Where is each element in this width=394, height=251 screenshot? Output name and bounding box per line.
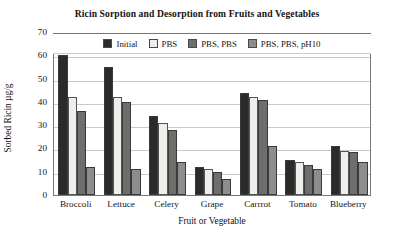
bar	[149, 116, 158, 195]
bar-group	[149, 34, 186, 195]
bar	[113, 97, 122, 195]
bar	[77, 111, 86, 195]
bar	[195, 167, 204, 195]
x-axis-tick-label: Blueberry	[326, 199, 371, 209]
x-axis-title: Fruit or Vegetable	[53, 216, 371, 226]
bar	[313, 169, 322, 195]
bar	[331, 146, 340, 195]
legend-label: PBS, PBS	[201, 39, 237, 49]
y-axis-tick-label: 40	[17, 98, 47, 107]
bar-group	[104, 34, 141, 195]
chart-legend: InitialPBSPBS, PBSPBS, PBS, pH10	[53, 34, 371, 54]
legend-item: PBS, PBS, pH10	[248, 39, 321, 49]
bar	[222, 179, 231, 195]
bar-group	[331, 34, 368, 195]
x-axis-tick-label: Broccoli	[53, 199, 98, 209]
y-axis-tick-label: 60	[17, 51, 47, 60]
bar	[240, 93, 249, 195]
bar	[158, 123, 167, 195]
legend-label: Initial	[116, 39, 137, 49]
bars-layer	[54, 34, 370, 195]
bar	[295, 162, 304, 195]
x-axis-tick-label: Carrrot	[235, 199, 280, 209]
y-axis-tick-label: 20	[17, 144, 47, 153]
bar-group	[285, 34, 322, 195]
bar	[349, 152, 358, 195]
bar	[58, 55, 67, 195]
chart-container: Ricin Sorption and Desorption from Fruit…	[0, 0, 394, 251]
legend-label: PBS	[162, 39, 178, 49]
y-axis-title: Sorbed Ricin µg/g	[1, 58, 15, 178]
bar-group	[195, 34, 232, 195]
x-axis-tick-label: Celery	[144, 199, 189, 209]
legend-swatch-icon	[103, 39, 112, 48]
legend-swatch-icon	[149, 39, 158, 48]
legend-swatch-icon	[248, 39, 257, 48]
bar	[68, 97, 77, 195]
y-axis-title-text: Sorbed Ricin µg/g	[3, 84, 13, 153]
x-axis-tick-label: Lettuce	[98, 199, 143, 209]
bar	[131, 169, 140, 195]
y-axis-tick-label: 0	[17, 191, 47, 200]
x-axis-tick-label: Tomato	[280, 199, 325, 209]
legend-label: PBS, PBS, pH10	[261, 39, 321, 49]
bar	[122, 102, 131, 195]
bar	[258, 100, 267, 195]
legend-item: Initial	[103, 39, 137, 49]
legend-swatch-icon	[188, 39, 197, 48]
bar	[358, 162, 367, 195]
bar	[204, 169, 213, 195]
chart-title: Ricin Sorption and Desorption from Fruit…	[0, 8, 394, 19]
bar	[340, 151, 349, 195]
bar-group	[58, 34, 95, 195]
legend-item: PBS	[149, 39, 178, 49]
bar	[249, 97, 258, 195]
plot-area	[53, 33, 371, 196]
y-axis-tick-label: 50	[17, 75, 47, 84]
bar	[285, 160, 294, 195]
y-axis-tick-label: 30	[17, 121, 47, 130]
y-axis-tick-label: 10	[17, 168, 47, 177]
y-axis-tick-label: 70	[17, 28, 47, 37]
bar	[104, 67, 113, 195]
bar	[304, 165, 313, 195]
bar-group	[240, 34, 277, 195]
bar	[213, 172, 222, 195]
legend-item: PBS, PBS	[188, 39, 237, 49]
x-axis-tick-label: Grape	[189, 199, 234, 209]
bar	[177, 162, 186, 195]
bar	[168, 130, 177, 195]
bar	[268, 146, 277, 195]
bar	[86, 167, 95, 195]
